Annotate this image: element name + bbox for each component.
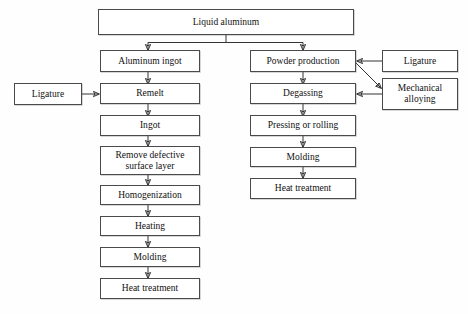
node-remove-defective-surface-layer[interactable]: Remove defective surface layer bbox=[100, 146, 200, 175]
node-label: Ligature bbox=[32, 89, 64, 100]
node-label: Homogenization bbox=[118, 190, 182, 201]
node-label: Mechanical alloying bbox=[398, 83, 443, 104]
node-pressing-or-rolling[interactable]: Pressing or rolling bbox=[250, 115, 356, 136]
node-ingot[interactable]: Ingot bbox=[100, 115, 200, 136]
node-remelt[interactable]: Remelt bbox=[100, 83, 200, 104]
node-powder-production[interactable]: Powder production bbox=[250, 50, 356, 72]
node-label: Remelt bbox=[136, 88, 164, 99]
node-molding-left[interactable]: Molding bbox=[100, 247, 200, 267]
node-label: Pressing or rolling bbox=[268, 120, 339, 131]
node-homogenization[interactable]: Homogenization bbox=[100, 185, 200, 205]
node-label: Degassing bbox=[283, 88, 323, 99]
node-label: Liquid aluminum bbox=[193, 17, 260, 28]
node-molding-right[interactable]: Molding bbox=[250, 147, 356, 167]
node-label: Ligature bbox=[404, 56, 436, 67]
connector-powder-to-mechanical-alloying bbox=[355, 62, 381, 88]
node-label: Heat treatment bbox=[122, 283, 178, 294]
node-label: Powder production bbox=[267, 56, 340, 67]
node-heating[interactable]: Heating bbox=[100, 216, 200, 236]
node-heat-treatment-left[interactable]: Heat treatment bbox=[100, 278, 200, 299]
node-label: Heat treatment bbox=[275, 183, 331, 194]
node-liquid-aluminum[interactable]: Liquid aluminum bbox=[98, 9, 354, 35]
node-degassing[interactable]: Degassing bbox=[250, 83, 356, 104]
node-label: Molding bbox=[134, 252, 167, 263]
node-label: Aluminum ingot bbox=[118, 56, 181, 67]
node-ligature-right[interactable]: Ligature bbox=[382, 50, 458, 72]
node-aluminum-ingot[interactable]: Aluminum ingot bbox=[100, 50, 200, 72]
node-mechanical-alloying[interactable]: Mechanical alloying bbox=[382, 78, 458, 110]
connector-layer bbox=[0, 0, 468, 314]
node-heat-treatment-right[interactable]: Heat treatment bbox=[250, 178, 356, 199]
node-label: Remove defective surface layer bbox=[115, 150, 184, 171]
flowchart-canvas: Liquid aluminum Aluminum ingot Ligature … bbox=[0, 0, 468, 314]
node-ligature-left[interactable]: Ligature bbox=[14, 83, 82, 105]
node-label: Ingot bbox=[140, 120, 160, 131]
node-label: Heating bbox=[135, 221, 165, 232]
node-label: Molding bbox=[287, 152, 320, 163]
